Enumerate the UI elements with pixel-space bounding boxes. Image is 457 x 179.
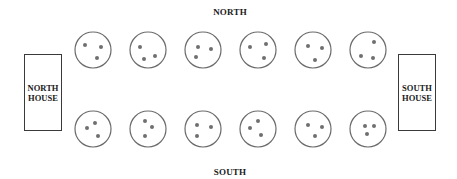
bottom-pot-1 [75,111,111,147]
seed-dot [209,47,213,51]
seed-dot [209,125,213,129]
seed-dot [93,121,97,125]
seed-dot [256,119,260,123]
seed-dot [83,43,87,47]
bottom-row-pots [75,111,386,147]
seed-dot [153,54,157,58]
pot-circle [130,111,166,147]
pot-circle [295,32,331,68]
top-pot-2 [130,32,166,68]
seed-dot [248,45,252,49]
pot-circle [240,111,276,147]
seed-dot [259,133,263,137]
seed-dot [248,126,252,130]
seed-dot [320,125,324,129]
seed-dot [363,124,367,128]
pot-circle [130,32,166,68]
seed-dot [95,56,99,60]
seed-dot [320,46,324,50]
seed-dot [195,123,199,127]
seed-dot [142,57,146,61]
pot-circle [75,32,111,68]
plant-pots-layer [0,0,457,179]
seed-dot [143,119,147,123]
pot-circle [185,32,221,68]
top-pot-5 [295,32,331,68]
top-pot-6 [350,32,386,68]
seed-dot [306,123,310,127]
seed-dot [138,45,142,49]
seed-dot [372,124,376,128]
pot-circle [75,111,111,147]
seed-dot [194,55,198,59]
seed-dot [371,56,375,60]
seed-dot [365,132,369,136]
seed-dot [150,125,154,129]
bottom-pot-6 [350,111,386,147]
pot-circle [295,111,331,147]
pot-circle [240,32,276,68]
top-pot-3 [185,32,221,68]
top-pot-4 [240,32,276,68]
seed-dot [262,56,266,60]
seed-dot [306,44,310,48]
bottom-pot-3 [185,111,221,147]
seed-dot [372,40,376,44]
seed-dot [196,45,200,49]
seed-dot [143,134,147,138]
seed-dot [313,58,317,62]
pot-circle [185,111,221,147]
seed-dot [85,126,89,130]
bottom-pot-2 [130,111,166,147]
bottom-pot-5 [295,111,331,147]
seed-dot [96,134,100,138]
garden-layout-diagram: NORTH SOUTH NORTH HOUSE SOUTH HOUSE [0,0,457,179]
seed-dot [313,134,317,138]
seed-dot [264,42,268,46]
seed-dot [195,134,199,138]
top-row-pots [75,32,386,68]
seed-dot [359,54,363,58]
pot-circle [350,32,386,68]
top-pot-1 [75,32,111,68]
bottom-pot-4 [240,111,276,147]
pot-circle [350,111,386,147]
seed-dot [99,45,103,49]
